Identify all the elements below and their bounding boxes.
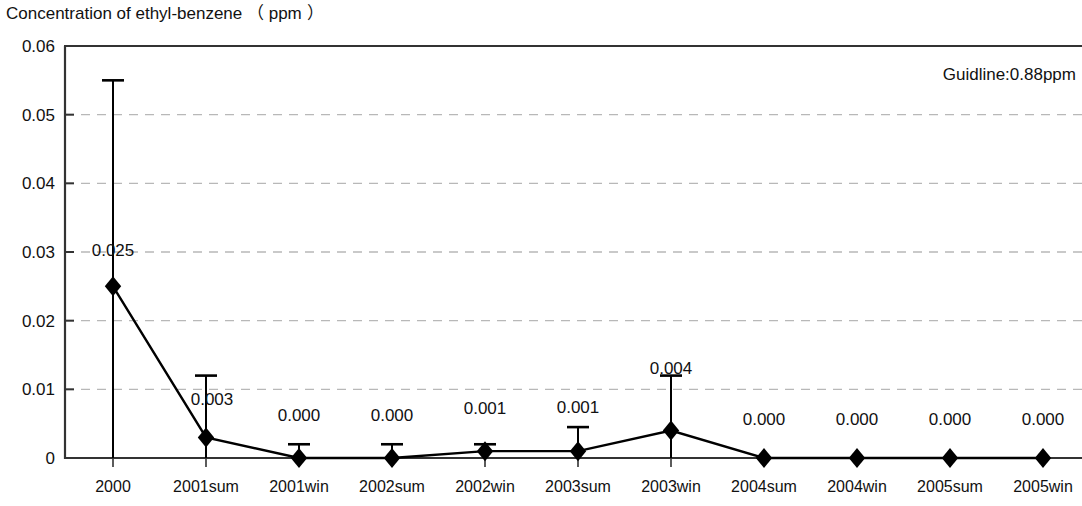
data-marker-diamond bbox=[198, 427, 214, 447]
x-axis-tick-label: 2003sum bbox=[545, 478, 611, 495]
data-marker-diamond bbox=[663, 421, 679, 441]
x-axis-tick-label: 2002sum bbox=[359, 478, 425, 495]
gridlines bbox=[65, 115, 1082, 390]
data-point-label: 0.003 bbox=[191, 390, 234, 409]
data-point-label: 0.000 bbox=[371, 406, 414, 425]
x-axis-tick-label: 2004sum bbox=[731, 478, 797, 495]
data-point-label: 0.000 bbox=[1022, 410, 1065, 429]
data-point-label: 0.025 bbox=[92, 241, 135, 260]
y-axis-tick-label: 0.04 bbox=[22, 174, 55, 193]
data-marker-diamond bbox=[756, 448, 772, 468]
x-axis-tick-label: 2005win bbox=[1013, 478, 1073, 495]
y-axis-tick-label: 0.03 bbox=[22, 243, 55, 262]
data-point-label: 0.000 bbox=[278, 406, 321, 425]
data-point-label: 0.001 bbox=[464, 399, 507, 418]
x-axis-tick-label: 2000 bbox=[95, 478, 131, 495]
x-axis-tick-label: 2003win bbox=[641, 478, 701, 495]
y-axis-tick-label: 0.06 bbox=[22, 37, 55, 56]
guideline-annotation: Guidline:0.88ppm bbox=[943, 65, 1076, 84]
x-axis-tick-label: 2004win bbox=[827, 478, 887, 495]
y-axis-ticks bbox=[65, 115, 74, 390]
data-point-label: 0.004 bbox=[650, 359, 693, 378]
data-point-label: 0.001 bbox=[557, 398, 600, 417]
x-axis-tick-labels: 20002001sum2001win2002sum2002win2003sum2… bbox=[95, 478, 1073, 495]
data-point-label: 0.000 bbox=[743, 410, 786, 429]
data-marker-diamond bbox=[942, 448, 958, 468]
y-axis-tick-label: 0 bbox=[46, 449, 55, 468]
x-axis-tick-label: 2002win bbox=[455, 478, 515, 495]
x-axis-tick-label: 2005sum bbox=[917, 478, 983, 495]
y-axis-tick-label: 0.05 bbox=[22, 106, 55, 125]
data-marker-diamond bbox=[849, 448, 865, 468]
y-axis-tick-labels: 00.010.020.030.040.050.06 bbox=[22, 37, 55, 468]
data-point-labels: 0.0250.0030.0000.0000.0010.0010.0040.000… bbox=[92, 241, 1065, 429]
data-marker-diamond bbox=[105, 276, 121, 296]
x-axis-tick-label: 2001win bbox=[269, 478, 329, 495]
data-marker-diamond bbox=[1035, 448, 1051, 468]
y-axis-tick-label: 0.02 bbox=[22, 312, 55, 331]
line-chart-plot: 00.010.020.030.040.050.06 20002001sum200… bbox=[0, 0, 1082, 506]
data-marker-diamond bbox=[291, 448, 307, 468]
data-point-label: 0.000 bbox=[836, 410, 879, 429]
data-point-label: 0.000 bbox=[929, 410, 972, 429]
x-axis-tick-label: 2001sum bbox=[173, 478, 239, 495]
chart-container: Concentration of ethyl-benzene （ ppm ） 0… bbox=[0, 0, 1082, 506]
data-marker-diamond bbox=[384, 448, 400, 468]
y-axis-tick-label: 0.01 bbox=[22, 380, 55, 399]
